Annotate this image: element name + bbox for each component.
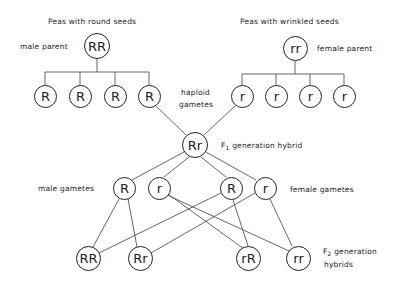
f2-label: F2 generation: [323, 247, 377, 257]
f2-node: rr: [286, 246, 311, 271]
male-parent-label: male parent: [20, 42, 68, 51]
female-haploid-node: r: [299, 85, 322, 108]
wrinkled-seeds-title: Peas with wrinkled seeds: [240, 17, 339, 26]
female-haploid-node: r: [333, 85, 356, 108]
gametes-label: gametes: [179, 100, 213, 109]
f2-hybrids-label: hybrids: [324, 260, 353, 269]
female-gamete-node: R: [220, 177, 243, 200]
male-haploid-node: R: [138, 85, 161, 108]
f2-node: Rr: [128, 246, 153, 271]
female-parent-node: rr: [283, 36, 308, 61]
female-haploid-node: r: [231, 85, 254, 108]
male-parent-node: RR: [84, 33, 110, 59]
female-haploid-node: r: [265, 85, 288, 108]
male-haploid-node: R: [104, 85, 127, 108]
haploid-label: haploid: [181, 88, 210, 97]
female-gametes-label: female gametes: [290, 185, 354, 194]
f2-node: RR: [76, 246, 101, 271]
male-gamete-node: R: [113, 177, 136, 200]
female-parent-label: female parent: [317, 44, 372, 53]
f1-hybrid-node: Rr: [182, 132, 208, 158]
male-haploid-node: R: [69, 85, 92, 108]
male-gametes-label: male gametes: [38, 184, 94, 193]
f1-label: F1 generation hybrid: [221, 141, 303, 151]
male-gamete-node: r: [148, 177, 171, 200]
male-haploid-node: R: [34, 85, 57, 108]
f2-node: rR: [236, 246, 261, 271]
round-seeds-title: Peas with round seeds: [48, 17, 136, 26]
female-gamete-node: r: [254, 177, 277, 200]
